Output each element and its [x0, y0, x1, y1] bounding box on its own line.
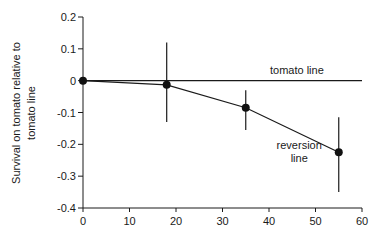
annotation-label: line: [291, 152, 308, 164]
x-tick-label: 0: [80, 215, 86, 227]
x-tick-label: 40: [263, 215, 275, 227]
x-axis-ticks: 0102030405060: [80, 208, 368, 227]
x-tick-label: 10: [123, 215, 135, 227]
x-tick-label: 60: [356, 215, 368, 227]
x-tick-label: 20: [170, 215, 182, 227]
y-tick-label: -0.4: [57, 202, 76, 214]
annotations: tomato linereversionline: [270, 64, 324, 164]
y-axis-label-line: Survival on tomato relative to: [10, 42, 22, 184]
y-tick-label: 0.2: [61, 11, 76, 23]
annotation-label: tomato line: [270, 64, 324, 76]
axes: [83, 17, 362, 208]
chart: Survival on tomato relative totomato lin…: [0, 0, 374, 252]
y-tick-label: -0.1: [57, 107, 76, 119]
x-tick-label: 50: [309, 215, 321, 227]
y-tick-label: 0.1: [61, 43, 76, 55]
data-point-marker: [79, 77, 87, 85]
y-tick-label: 0: [70, 75, 76, 87]
y-tick-label: -0.2: [57, 138, 76, 150]
data-point-marker: [163, 81, 171, 89]
y-tick-label: -0.3: [57, 170, 76, 182]
y-axis-label: Survival on tomato relative totomato lin…: [10, 42, 37, 184]
x-tick-label: 30: [216, 215, 228, 227]
data-point-marker: [242, 104, 250, 112]
y-axis-label-line: tomato line: [25, 86, 37, 140]
y-axis-ticks: 0.20.10-0.1-0.2-0.3-0.4: [57, 11, 83, 214]
annotation-label: reversion: [277, 139, 322, 151]
data-point-marker: [335, 148, 343, 156]
